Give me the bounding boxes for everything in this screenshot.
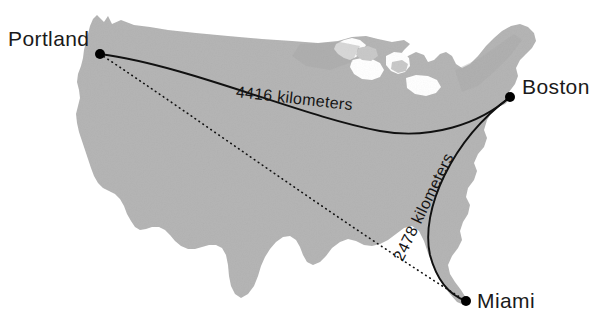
distance-map-figure: Portland Boston Miami 4416 kilometers 24… xyxy=(0,0,594,323)
city-label-miami: Miami xyxy=(477,290,535,311)
city-marker-boston[interactable] xyxy=(505,92,515,102)
city-label-boston: Boston xyxy=(522,76,590,97)
city-marker-miami[interactable] xyxy=(461,296,471,306)
city-label-portland: Portland xyxy=(8,28,89,49)
city-marker-portland[interactable] xyxy=(95,49,105,59)
